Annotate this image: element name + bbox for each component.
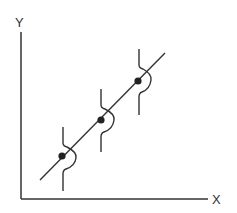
data-point-3 <box>134 77 141 84</box>
conditional-distribution-1 <box>63 127 76 191</box>
data-point-2 <box>97 116 104 123</box>
regression-diagram <box>0 0 237 213</box>
y-axis-label: Y <box>15 16 24 29</box>
regression-line <box>40 53 165 180</box>
x-axis-label: X <box>212 193 221 206</box>
data-point-1 <box>58 152 65 159</box>
